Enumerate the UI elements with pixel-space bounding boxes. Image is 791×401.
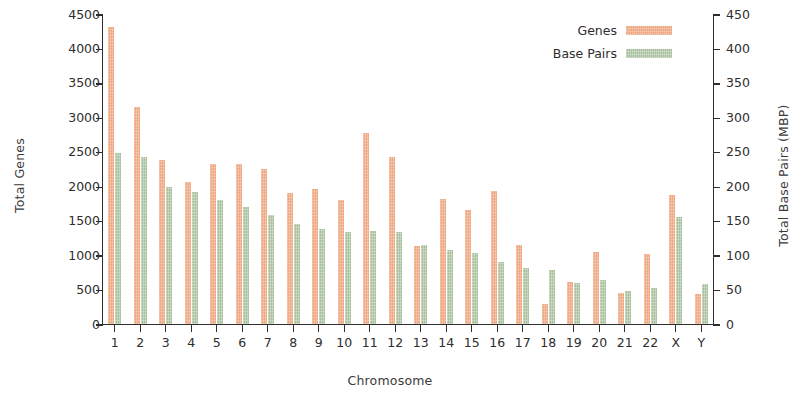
- x-axis-tick: [624, 325, 625, 332]
- bar-genes: [695, 294, 701, 324]
- y-axis-right-tick: [713, 324, 720, 325]
- y-axis-right-tick: [713, 221, 720, 222]
- bar-genes: [414, 246, 420, 323]
- left-axis-spine: [102, 15, 103, 325]
- bottom-axis-spine: [102, 324, 714, 325]
- x-axis-tick: [293, 325, 294, 332]
- x-axis-tick: [701, 325, 702, 332]
- y-axis-right-tick-label: 0: [726, 319, 786, 332]
- legend-item-genes: Genes: [512, 20, 672, 40]
- x-axis-tick: [165, 325, 166, 332]
- bar-genes: [516, 245, 522, 324]
- y-axis-right-tick-label: 100: [726, 250, 786, 263]
- y-axis-left-tick-label: 3000: [40, 112, 100, 125]
- x-axis-title: Chromosome: [0, 373, 780, 388]
- legend-label-base-pairs: Base Pairs: [553, 46, 617, 61]
- bar-genes: [159, 160, 165, 323]
- bar-base-pairs: [523, 268, 529, 324]
- x-axis-tick: [599, 325, 600, 332]
- bar-base-pairs: [702, 284, 708, 323]
- bar-genes: [261, 169, 267, 324]
- bar-base-pairs: [676, 217, 682, 324]
- x-axis-tick: [522, 325, 523, 332]
- bar-base-pairs: [141, 157, 147, 324]
- bar-genes: [644, 254, 650, 324]
- bar-genes: [312, 189, 318, 324]
- x-axis-tick: [497, 325, 498, 332]
- y-axis-right-tick: [713, 83, 720, 84]
- legend-label-genes: Genes: [577, 23, 617, 38]
- bar-genes: [465, 210, 471, 324]
- y-axis-right-tick-label: 350: [726, 77, 786, 90]
- bar-base-pairs: [396, 232, 402, 324]
- y-axis-left-tick-label: 2000: [40, 181, 100, 194]
- bar-base-pairs: [421, 245, 427, 324]
- x-axis-tick: [216, 325, 217, 332]
- x-axis-tick: [548, 325, 549, 332]
- y-axis-left-tick-label: 500: [40, 284, 100, 297]
- x-axis-tick: [267, 325, 268, 332]
- y-axis-right-tick: [713, 187, 720, 188]
- x-axis-tick: [573, 325, 574, 332]
- bar-genes: [669, 195, 675, 323]
- x-axis-tick: [675, 325, 676, 332]
- y-axis-left-tick-label: 3500: [40, 77, 100, 90]
- x-axis-tick: [242, 325, 243, 332]
- bar-genes: [567, 282, 573, 324]
- y-axis-left-tick-label: 4500: [40, 9, 100, 22]
- bar-genes: [108, 27, 114, 323]
- x-axis-tick: [318, 325, 319, 332]
- y-axis-right-tick-label: 150: [726, 215, 786, 228]
- bar-base-pairs: [115, 153, 121, 324]
- bar-genes: [363, 133, 369, 324]
- bar-base-pairs: [319, 229, 325, 324]
- bar-base-pairs: [651, 288, 657, 323]
- bar-genes: [593, 252, 599, 324]
- y-axis-right-tick: [713, 14, 720, 15]
- y-axis-right-tick: [713, 290, 720, 291]
- x-axis-tick: [114, 325, 115, 332]
- y-axis-left-tick-label: 0: [40, 319, 100, 332]
- y-axis-right-tick: [713, 49, 720, 50]
- bar-base-pairs: [192, 192, 198, 324]
- bar-base-pairs: [600, 280, 606, 323]
- bar-genes: [338, 200, 344, 323]
- y-axis-right-tick: [713, 255, 720, 256]
- bar-genes: [542, 304, 548, 323]
- bar-genes: [185, 182, 191, 323]
- x-axis-tick: [369, 325, 370, 332]
- bar-base-pairs: [370, 231, 376, 324]
- bar-genes: [491, 191, 497, 324]
- legend-swatch-base-pairs: [626, 49, 672, 58]
- bar-base-pairs: [166, 187, 172, 324]
- x-axis-tick: [344, 325, 345, 332]
- y-axis-right-title: Total Base Pairs (MBP): [776, 81, 791, 271]
- chart-legend: Genes Base Pairs: [512, 20, 672, 66]
- bar-base-pairs: [294, 224, 300, 324]
- bar-genes: [618, 293, 624, 324]
- x-axis-tick: [191, 325, 192, 332]
- y-axis-right-tick-label: 300: [726, 112, 786, 125]
- y-axis-left-tick-label: 2500: [40, 146, 100, 159]
- y-axis-left-title: Total Genes: [12, 111, 27, 241]
- bar-base-pairs: [574, 283, 580, 324]
- x-axis-tick-label: Y: [686, 337, 716, 350]
- y-axis-left-tick-label: 4000: [40, 43, 100, 56]
- bar-base-pairs: [549, 270, 555, 324]
- bar-base-pairs: [345, 232, 351, 324]
- y-axis-left-tick-label: 1000: [40, 250, 100, 263]
- y-axis-right-tick-label: 50: [726, 284, 786, 297]
- bar-base-pairs: [447, 250, 453, 324]
- x-axis-tick: [650, 325, 651, 332]
- bar-base-pairs: [498, 262, 504, 324]
- bar-genes: [287, 193, 293, 324]
- right-axis-spine: [713, 15, 714, 325]
- x-axis-tick: [140, 325, 141, 332]
- bar-base-pairs: [217, 200, 223, 324]
- y-axis-right-tick-label: 200: [726, 181, 786, 194]
- legend-item-base-pairs: Base Pairs: [512, 43, 672, 63]
- bar-base-pairs: [268, 215, 274, 324]
- bar-genes: [134, 107, 140, 323]
- y-axis-right-tick-label: 250: [726, 146, 786, 159]
